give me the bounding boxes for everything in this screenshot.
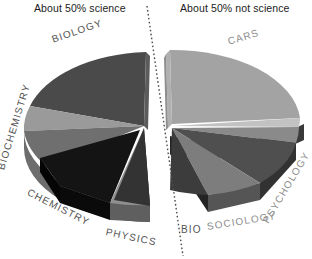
header-science-label: About 50% science — [34, 2, 126, 14]
slice-label-bio: BIO — [181, 224, 202, 235]
slice-side-physics — [110, 203, 150, 222]
pie-chart-figure: About 50% science About 50% not science … — [0, 0, 312, 259]
header-not-science-label: About 50% not science — [180, 2, 290, 14]
